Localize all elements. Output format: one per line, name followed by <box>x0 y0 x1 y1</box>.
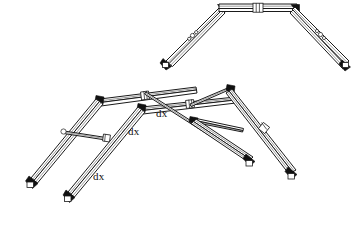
lower-frame-group <box>26 85 298 203</box>
lower-left-tie-knuckle-b <box>103 134 111 142</box>
upper-right-leg <box>290 7 349 69</box>
diagram-canvas: dx dx dx <box>0 0 364 229</box>
lower-rear-right-leg <box>226 89 296 174</box>
dimension-label-dx-2: dx <box>128 126 139 137</box>
dimension-label-dx-3: dx <box>93 171 104 182</box>
frame-drawing <box>0 0 364 229</box>
dimension-label-dx-1: dx <box>156 108 167 119</box>
upper-left-leg <box>166 7 225 67</box>
lower-left-tie-knuckle-a <box>61 129 66 134</box>
upper-top-bar-collar <box>253 3 263 12</box>
upper-frame-group <box>160 3 351 71</box>
